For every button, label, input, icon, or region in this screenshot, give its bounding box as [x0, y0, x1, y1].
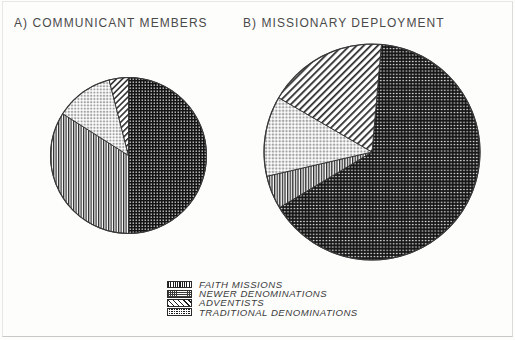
pie-chart-b-svg — [261, 41, 483, 263]
legend-label-traditional-denominations: TRADITIONAL DENOMINATIONS — [199, 308, 358, 317]
vertical-stripe-swatch-icon — [167, 281, 192, 289]
legend-item-traditional-denominations: TRADITIONAL DENOMINATIONS — [167, 308, 367, 317]
legend: FAITH MISSIONS NEWER DENOMINATIONS ADVEN… — [167, 280, 367, 317]
fine-dot-swatch-icon — [167, 290, 192, 298]
chart-a-title: A) COMMUNICANT MEMBERS — [14, 16, 208, 30]
pie-chart-a-svg — [48, 75, 209, 236]
legend-item-newer-denominations: NEWER DENOMINATIONS — [167, 289, 367, 298]
chart-b-title: B) MISSIONARY DEPLOYMENT — [243, 16, 445, 30]
pie-chart-a — [48, 75, 209, 236]
pie-chart-b — [261, 41, 483, 263]
figure-canvas: A) COMMUNICANT MEMBERS B) MISSIONARY DEP… — [0, 0, 515, 340]
diagonal-stripe-swatch-icon — [167, 299, 192, 307]
dense-checker-swatch-icon — [167, 308, 192, 316]
pie-slice — [129, 78, 207, 234]
